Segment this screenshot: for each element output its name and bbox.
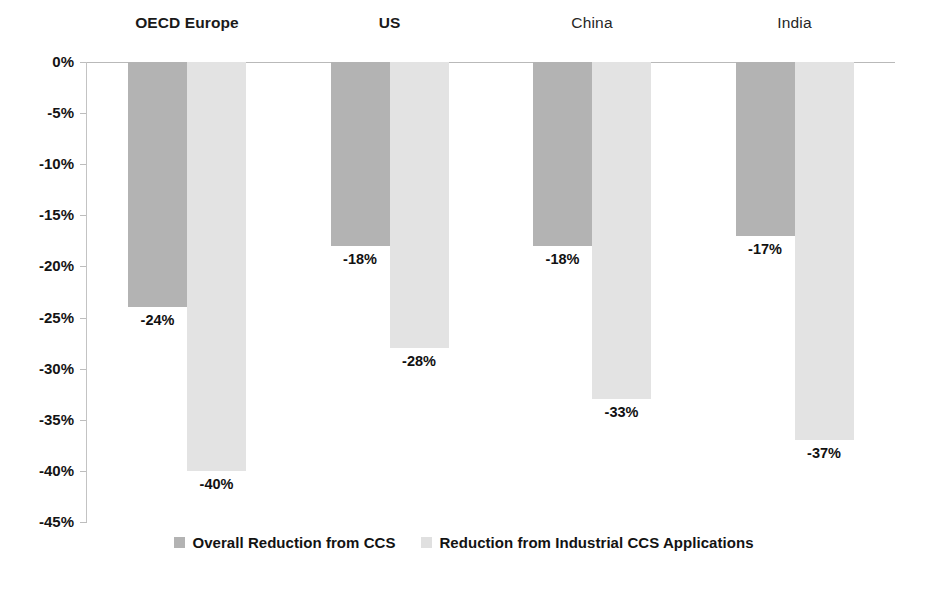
bar-oecd-europe-series1 (128, 62, 187, 307)
bar-india-series1 (736, 62, 795, 236)
bar-india-series2 (795, 62, 854, 440)
legend-item-2[interactable]: Reduction from Industrial CCS Applicatio… (421, 534, 753, 551)
legend-swatch-icon (174, 537, 185, 548)
bar-value-label: -18% (523, 251, 602, 267)
chart-legend: Overall Reduction from CCSReduction from… (0, 534, 928, 551)
bar-value-label: -28% (380, 353, 459, 369)
category-label-india: India (736, 14, 854, 32)
y-axis-tick-label: -5% (8, 104, 74, 121)
bar-us-series1 (331, 62, 390, 246)
bar-us-series2 (390, 62, 449, 348)
category-label-oecd-europe: OECD Europe (128, 14, 246, 32)
bar-china-series2 (592, 62, 651, 399)
legend-label: Reduction from Industrial CCS Applicatio… (439, 534, 753, 551)
bar-china-series1 (533, 62, 592, 246)
y-axis-tick-label: -45% (8, 513, 74, 530)
bar-oecd-europe-series2 (187, 62, 246, 471)
category-label-us: US (331, 14, 449, 32)
category-title-row: OECD EuropeUSChinaIndia (87, 14, 897, 44)
y-axis-tick-label: -25% (8, 309, 74, 326)
bar-value-label: -40% (177, 476, 256, 492)
y-axis-tick-label: -35% (8, 411, 74, 428)
y-axis-tick-label: 0% (8, 53, 74, 70)
y-axis-tick-label: -20% (8, 257, 74, 274)
category-label-china: China (533, 14, 651, 32)
bar-value-label: -37% (785, 445, 864, 461)
y-axis-tick-label: -40% (8, 462, 74, 479)
legend-swatch-icon (421, 537, 432, 548)
bar-chart: OECD EuropeUSChinaIndia 0%-5%-10%-15%-20… (0, 0, 928, 594)
y-axis-tick-label: -15% (8, 206, 74, 223)
legend-item-1[interactable]: Overall Reduction from CCS (174, 534, 395, 551)
bar-value-label: -24% (118, 312, 197, 328)
legend-label: Overall Reduction from CCS (192, 534, 395, 551)
bar-value-label: -18% (321, 251, 400, 267)
y-axis-tick-label: -10% (8, 155, 74, 172)
bar-value-label: -33% (582, 404, 661, 420)
plot-area: -24%-18%-18%-17%-40%-28%-33%-37% (87, 62, 897, 522)
y-axis-tick-mark (80, 522, 87, 523)
y-axis-tick-label: -30% (8, 360, 74, 377)
bar-value-label: -17% (726, 241, 805, 257)
